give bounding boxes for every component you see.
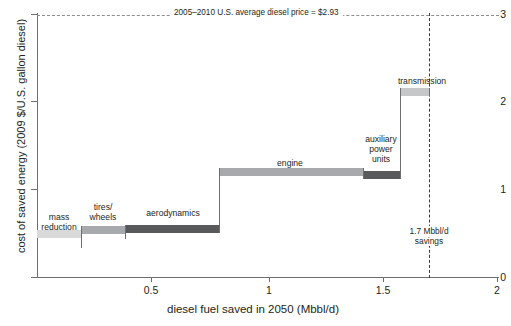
step-label-engine: engine — [243, 158, 337, 168]
x-axis-title: diesel fuel saved in 2050 (Mbbl/d) — [0, 303, 506, 315]
diesel-price-annotation: 2005–2010 U.S. average diesel price = $2… — [170, 8, 343, 17]
savings-annotation-line2: savings — [415, 236, 443, 246]
step-riser-tires-aero — [125, 225, 126, 239]
x-tick-0p5 — [151, 277, 152, 282]
y-tick-2 — [31, 101, 37, 102]
step-riser-trans-end — [429, 88, 430, 96]
step-label-transmission: transmission — [386, 76, 458, 86]
step-label-tires-wheels: tires/ wheels — [78, 202, 128, 222]
step-riser-aero-engine — [219, 168, 220, 233]
step-bar-aerodynamics — [125, 225, 219, 233]
y-tick-label-0: 0 — [478, 272, 506, 283]
x-tick-label-1p5: 1.5 — [363, 285, 403, 296]
step-label-auxiliary-power-units: auxiliary power units — [356, 134, 406, 164]
step-bar-transmission — [400, 88, 429, 96]
y-axis-line — [37, 13, 38, 278]
step-label-aux-line1: auxiliary — [365, 134, 397, 144]
step-label-mass-reduction: mass reduction — [34, 212, 84, 232]
y-axis-title: cost of saved energy (2009 $/U.S. gallon… — [15, 11, 27, 261]
step-bar-auxiliary-power-units — [363, 171, 400, 179]
step-label-tires-line1: tires/ — [94, 202, 113, 212]
y-tick-label-2: 2 — [478, 96, 506, 107]
step-label-tires-line2: wheels — [90, 212, 117, 222]
step-riser-engine-aux — [363, 168, 364, 179]
y-tick-0 — [31, 277, 37, 278]
x-tick-label-2: 2 — [477, 285, 511, 296]
x-tick-label-0p5: 0.5 — [131, 285, 171, 296]
y-tick-label-1: 1 — [478, 184, 506, 195]
step-label-mass-line1: mass — [49, 212, 70, 222]
step-label-aux-line3: units — [372, 154, 390, 164]
step-label-mass-line2: reduction — [41, 222, 76, 232]
x-tick-label-1: 1 — [249, 285, 289, 296]
savings-annotation-line1: 1.7 Mbbl/d — [409, 226, 448, 236]
x-tick-1 — [269, 277, 270, 282]
savings-annotation: 1.7 Mbbl/d savings — [386, 226, 472, 246]
step-label-aerodynamics: aerodynamics — [127, 208, 219, 218]
step-label-aux-line2: power — [369, 144, 392, 154]
step-bar-tires-wheels — [81, 226, 125, 234]
x-tick-1p5 — [383, 277, 384, 282]
step-bar-engine — [219, 168, 363, 176]
x-tick-2 — [497, 277, 498, 282]
y-tick-1 — [31, 189, 37, 190]
